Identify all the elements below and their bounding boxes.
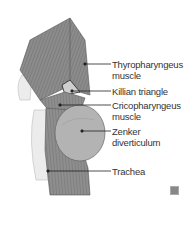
label-line: muscle <box>112 111 181 122</box>
label-line: Cricopharyngeus <box>112 100 181 111</box>
label-killian-triangle: Killian triangle <box>112 86 168 97</box>
label-zenker-diverticulum: Zenker diverticulum <box>112 126 160 148</box>
label-line: muscle <box>112 70 183 81</box>
label-line: diverticulum <box>112 137 160 148</box>
label-line: Trachea <box>112 166 145 177</box>
label-trachea: Trachea <box>112 166 145 177</box>
label-line: Zenker <box>112 126 160 137</box>
enlarge-icon[interactable] <box>170 186 179 195</box>
label-line: Killian triangle <box>112 86 168 97</box>
label-cricopharyngeus: Cricopharyngeus muscle <box>112 100 181 122</box>
label-line: Thyropharyngeus <box>112 59 183 70</box>
label-thyropharyngeus: Thyropharyngeus muscle <box>112 59 183 81</box>
zenker-diverticulum-shape <box>55 105 105 161</box>
